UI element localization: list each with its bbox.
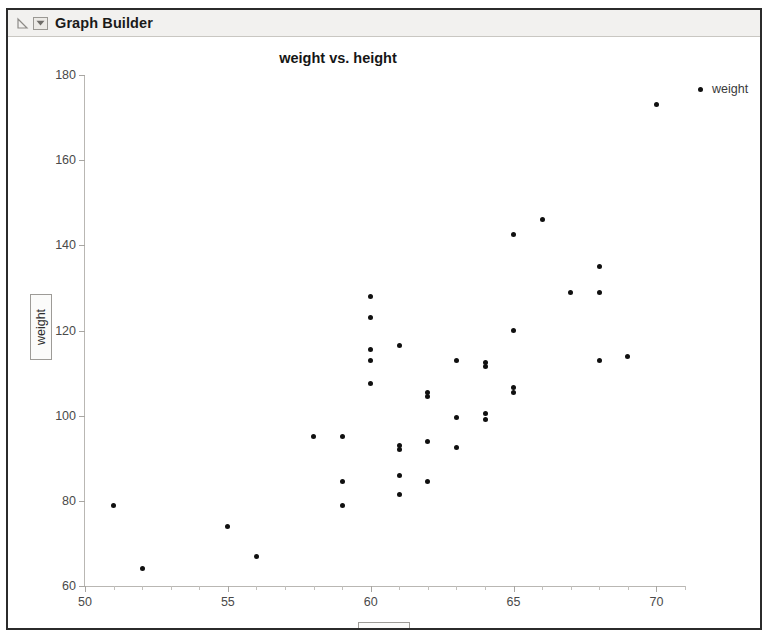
y-axis-tick-label: 100 — [55, 409, 76, 423]
data-point[interactable] — [454, 415, 459, 420]
y-axis-tick-label: 160 — [55, 153, 76, 167]
legend-marker-icon — [698, 87, 703, 92]
x-axis-minor-tick-mark — [199, 586, 200, 590]
graph-body: weight vs. height 6080100120140160180505… — [8, 37, 760, 628]
red-triangle-popup-icon[interactable] — [33, 17, 48, 30]
legend-entry-label[interactable]: weight — [712, 82, 748, 96]
x-axis-minor-tick-mark — [114, 586, 115, 590]
data-point[interactable] — [511, 385, 516, 390]
x-axis-minor-tick-mark — [571, 586, 572, 590]
y-axis-tick-mark — [79, 331, 85, 332]
y-axis-title-box[interactable]: weight — [30, 294, 52, 360]
y-axis-tick-label: 80 — [62, 494, 76, 508]
data-point[interactable] — [397, 447, 402, 452]
data-point[interactable] — [425, 390, 430, 395]
x-axis-minor-tick-mark — [599, 586, 600, 590]
data-point[interactable] — [597, 358, 602, 363]
data-point[interactable] — [511, 328, 516, 333]
data-point[interactable] — [397, 343, 402, 348]
data-point[interactable] — [397, 473, 402, 478]
data-point[interactable] — [454, 445, 459, 450]
x-axis-tick-label: 55 — [221, 595, 235, 609]
x-axis-minor-tick-mark — [314, 586, 315, 590]
data-point[interactable] — [540, 217, 545, 222]
data-point[interactable] — [483, 360, 488, 365]
y-axis-tick-mark — [79, 75, 85, 76]
data-point[interactable] — [654, 102, 659, 107]
x-axis-minor-tick-mark — [142, 586, 143, 590]
panel-titlebar: Graph Builder — [8, 10, 760, 37]
data-point[interactable] — [225, 524, 230, 529]
y-axis-title-label: weight — [34, 309, 48, 345]
y-axis-tick-label: 140 — [55, 238, 76, 252]
data-point[interactable] — [340, 434, 345, 439]
x-axis-title-box[interactable]: height — [358, 622, 410, 628]
data-point[interactable] — [397, 443, 402, 448]
x-axis-minor-tick-mark — [456, 586, 457, 590]
x-axis-minor-tick-mark — [542, 586, 543, 590]
data-point[interactable] — [111, 503, 116, 508]
data-point[interactable] — [368, 347, 373, 352]
data-point[interactable] — [425, 479, 430, 484]
data-point[interactable] — [340, 479, 345, 484]
plot-area[interactable]: 60801001201401601805055606570 — [85, 75, 685, 586]
y-axis-tick-mark — [79, 160, 85, 161]
x-axis-tick-mark — [228, 586, 229, 592]
x-axis-minor-tick-mark — [685, 586, 686, 590]
graph-builder-window: Graph Builder weight vs. height 60801001… — [6, 8, 762, 630]
x-axis-minor-tick-mark — [399, 586, 400, 590]
x-axis-minor-tick-mark — [342, 586, 343, 590]
x-axis-tick-mark — [371, 586, 372, 592]
data-point[interactable] — [425, 394, 430, 399]
data-point[interactable] — [311, 434, 316, 439]
data-point[interactable] — [454, 358, 459, 363]
data-point[interactable] — [483, 417, 488, 422]
chart-title: weight vs. height — [8, 50, 668, 66]
plot-frame: 60801001201401601805055606570 — [84, 75, 685, 587]
data-point[interactable] — [483, 411, 488, 416]
data-point[interactable] — [483, 364, 488, 369]
data-point[interactable] — [140, 566, 145, 571]
data-point[interactable] — [340, 503, 345, 508]
x-axis-minor-tick-mark — [256, 586, 257, 590]
x-axis-tick-label: 50 — [78, 595, 92, 609]
disclosure-triangle-icon[interactable] — [16, 17, 29, 30]
x-axis-title-label: height — [367, 626, 401, 629]
panel-title: Graph Builder — [55, 15, 153, 31]
x-axis-minor-tick-mark — [285, 586, 286, 590]
x-axis-tick-mark — [85, 586, 86, 592]
x-axis-tick-label: 65 — [507, 595, 521, 609]
data-point[interactable] — [368, 358, 373, 363]
y-axis-tick-label: 120 — [55, 324, 76, 338]
data-point[interactable] — [597, 264, 602, 269]
x-axis-minor-tick-mark — [485, 586, 486, 590]
y-axis-tick-label: 180 — [55, 68, 76, 82]
data-point[interactable] — [425, 439, 430, 444]
y-axis-tick-mark — [79, 501, 85, 502]
data-point[interactable] — [254, 554, 259, 559]
y-axis-tick-label: 60 — [62, 579, 76, 593]
data-point[interactable] — [368, 294, 373, 299]
data-point[interactable] — [368, 315, 373, 320]
x-axis-minor-tick-mark — [428, 586, 429, 590]
y-axis-tick-mark — [79, 245, 85, 246]
legend: weight — [698, 82, 748, 96]
data-point[interactable] — [397, 492, 402, 497]
data-point[interactable] — [568, 290, 573, 295]
data-point[interactable] — [625, 354, 630, 359]
x-axis-tick-label: 60 — [364, 595, 378, 609]
x-axis-minor-tick-mark — [171, 586, 172, 590]
x-axis-tick-mark — [656, 586, 657, 592]
x-axis-minor-tick-mark — [628, 586, 629, 590]
y-axis-tick-mark — [79, 416, 85, 417]
data-point[interactable] — [597, 290, 602, 295]
x-axis-tick-label: 70 — [649, 595, 663, 609]
data-point[interactable] — [511, 390, 516, 395]
x-axis-tick-mark — [514, 586, 515, 592]
data-point[interactable] — [368, 381, 373, 386]
data-point[interactable] — [511, 232, 516, 237]
